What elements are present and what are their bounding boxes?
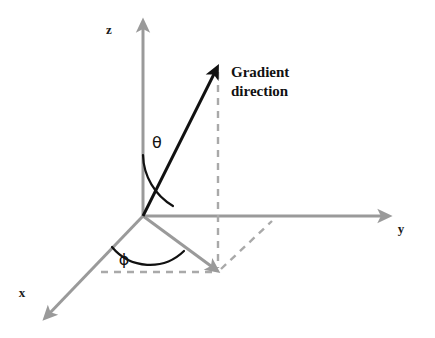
xy-plane-projection-arrow xyxy=(143,216,215,269)
dashed-projection-to-y-axis-line xyxy=(221,221,272,269)
y-axis-label: y xyxy=(398,221,405,236)
dashed-guides-group xyxy=(97,72,272,272)
coordinate-diagram: z y x θ ϕ Gradient direction xyxy=(0,0,435,338)
labels-group: z y x θ ϕ Gradient direction xyxy=(19,22,405,300)
theta-angle-label: θ xyxy=(152,133,162,152)
x-axis-label: x xyxy=(19,285,26,300)
gradient-direction-label-line-1: Gradient xyxy=(231,64,289,80)
phi-angle-label: ϕ xyxy=(119,250,130,269)
axes-group xyxy=(47,24,386,316)
angle-arcs-group xyxy=(112,155,184,265)
xy-plane-projection-group xyxy=(143,216,215,269)
z-axis-label: z xyxy=(106,22,112,37)
figure-canvas: z y x θ ϕ Gradient direction xyxy=(0,0,435,338)
gradient-direction-label-line-2: direction xyxy=(231,83,289,99)
